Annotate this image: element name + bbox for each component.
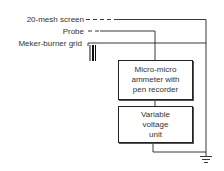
burner-grid-icon [90,45,96,61]
label-probe: Probe [63,27,84,36]
ammeter-label-line-3: pen recorder [131,85,179,95]
voltage-label-line-3: unit [141,130,170,140]
ground-icon [200,157,212,163]
voltage-label-line-1: Variable [141,110,170,120]
voltage-unit-box: Variable voltage unit [118,106,193,143]
label-20-mesh-screen: 20-mesh screen [27,15,84,24]
ammeter-label-line-2: ammeter with [131,75,179,85]
ammeter-box: Micro-micro ammeter with pen recorder [118,60,193,100]
ammeter-label-line-1: Micro-micro [131,65,179,75]
voltage-label-line-2: voltage [141,120,170,130]
label-meker-burner-grid: Meker-burner grid [18,39,82,48]
